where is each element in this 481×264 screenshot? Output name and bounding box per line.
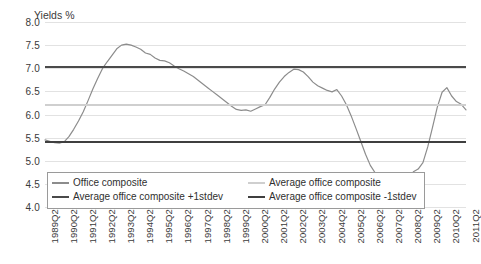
x-axis-tick-label: 2001Q2 — [278, 209, 289, 243]
x-axis-tick-label: 1989Q2 — [49, 209, 60, 243]
y-axis-tick-label: 8.0 — [14, 17, 40, 28]
x-axis-tick-label: 2005Q2 — [355, 209, 366, 243]
x-axis-tick-label: 2000Q2 — [259, 209, 270, 243]
x-axis-tick-label: 2011Q2 — [470, 209, 481, 243]
x-axis-tick-label: 1991Q2 — [87, 209, 98, 243]
reference-line-average-office-composite — [45, 104, 466, 106]
y-axis-tick-label: 6.5 — [14, 86, 40, 97]
x-axis-tick-label: 1990Q2 — [68, 209, 79, 243]
legend-label-office-composite: Office composite — [73, 178, 147, 188]
y-axis: 8.07.57.06.56.05.55.04.54.0 — [14, 0, 40, 264]
x-axis-tick-label: 1996Q2 — [182, 209, 193, 243]
legend-row-1: Office composite Average office composit… — [52, 176, 420, 190]
legend-label-plus-stdev: Average office composite +1stdev — [73, 192, 223, 202]
legend-item-office-composite: Office composite — [52, 178, 248, 188]
x-axis-tick-label: 2007Q2 — [393, 209, 404, 243]
legend-swatch-plus-stdev — [52, 196, 69, 199]
y-axis-tick-label: 4.0 — [14, 202, 40, 213]
x-axis-tick-label: 1997Q2 — [202, 209, 213, 243]
y-axis-caption: Yields % — [34, 9, 74, 21]
x-axis-tick-label: 1999Q2 — [240, 209, 251, 243]
reference-line-average-office-composite-1stdev — [45, 66, 466, 68]
x-axis: 1989Q21990Q21991Q21992Q21993Q21994Q21995… — [45, 209, 466, 264]
x-axis-tick-label: 2002Q2 — [297, 209, 308, 243]
x-axis-tick-label: 2008Q2 — [412, 209, 423, 243]
legend-swatch-office-composite — [52, 182, 69, 184]
legend-item-minus-stdev: Average office composite -1stdev — [248, 192, 417, 202]
y-axis-tick-label: 5.0 — [14, 155, 40, 166]
y-axis-tick-label: 7.5 — [14, 40, 40, 51]
y-axis-tick-label: 7.0 — [14, 63, 40, 74]
legend-item-plus-stdev: Average office composite +1stdev — [52, 192, 248, 202]
x-axis-tick-label: 2009Q2 — [431, 209, 442, 243]
x-axis-tick-label: 2010Q2 — [450, 209, 461, 243]
legend-row-2: Average office composite +1stdev Average… — [52, 190, 420, 204]
x-axis-tick-label: 1998Q2 — [221, 209, 232, 243]
chart-legend: Office composite Average office composit… — [47, 172, 425, 209]
y-axis-tick-label: 5.5 — [14, 132, 40, 143]
y-axis-tick-label: 4.5 — [14, 178, 40, 189]
x-axis-tick-label: 2006Q2 — [374, 209, 385, 243]
x-axis-tick-label: 1993Q2 — [125, 209, 136, 243]
x-axis-tick-label: 1992Q2 — [106, 209, 117, 243]
legend-label-average-office-composite: Average office composite — [269, 178, 381, 188]
x-axis-tick-label: 1995Q2 — [163, 209, 174, 243]
x-axis-tick-label: 2003Q2 — [316, 209, 327, 243]
legend-swatch-minus-stdev — [248, 196, 265, 199]
x-axis-tick-label: 2004Q2 — [336, 209, 347, 243]
legend-label-minus-stdev: Average office composite -1stdev — [269, 192, 417, 202]
legend-item-average-office-composite: Average office composite — [248, 178, 381, 188]
reference-line-average-office-composite-1stdev — [45, 141, 466, 143]
y-axis-tick-label: 6.0 — [14, 109, 40, 120]
x-axis-tick-label: 1994Q2 — [144, 209, 155, 243]
legend-swatch-average-office-composite — [248, 182, 265, 184]
